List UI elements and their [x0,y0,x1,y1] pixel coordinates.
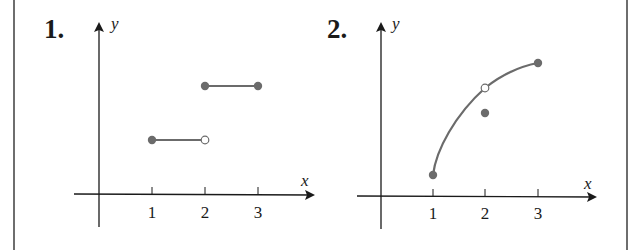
closed-point [534,59,542,67]
tick-label-3: 3 [534,204,543,223]
x-axis [357,196,595,197]
x-axis-label: x [583,174,592,193]
graph-2: y x 1 2 3 [0,0,635,250]
open-point [481,84,489,92]
closed-point [429,171,437,179]
y-axis-label: y [390,14,400,33]
tick-label-2: 2 [481,204,490,223]
curve [433,63,538,175]
tick-label-1: 1 [429,204,438,223]
isolated-point [481,109,489,117]
